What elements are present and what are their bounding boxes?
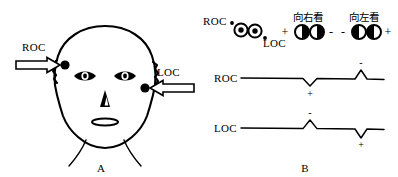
loc-electrode-dot	[140, 83, 149, 92]
panel-b-roc-dot	[230, 21, 234, 25]
look-right-right-sign: -	[329, 25, 333, 39]
panel-b-eye-right	[248, 24, 261, 37]
look-left-title: 向左看	[349, 11, 379, 23]
loc-look-left-sign: +	[358, 139, 364, 150]
loc-look-right-sign: -	[308, 107, 311, 118]
panel-b-label: B	[301, 162, 308, 174]
panel-a-label: A	[97, 162, 105, 174]
eog-figure: ROC LOC A ROC LOC	[0, 0, 398, 177]
figure-background	[0, 0, 398, 177]
panel-a-loc-label: LOC	[157, 66, 180, 78]
look-left-left-sign: -	[341, 25, 345, 39]
panel-a-roc-label: ROC	[22, 41, 46, 53]
roc-trace-label: ROC	[214, 72, 238, 84]
look-right-title: 向右看	[293, 11, 323, 23]
roc-electrode-dot	[60, 60, 69, 69]
roc-look-right-sign: +	[307, 88, 313, 99]
roc-look-left-sign: -	[359, 57, 362, 68]
panel-b-roc-label: ROC	[203, 15, 227, 27]
loc-trace-label: LOC	[214, 122, 237, 134]
mouth	[92, 118, 118, 125]
panel-b-eye-left	[234, 23, 247, 36]
figure-container: ROC LOC A ROC LOC	[0, 0, 398, 177]
look-left-right-sign: +	[385, 25, 392, 39]
look-right-left-sign: +	[282, 25, 289, 39]
